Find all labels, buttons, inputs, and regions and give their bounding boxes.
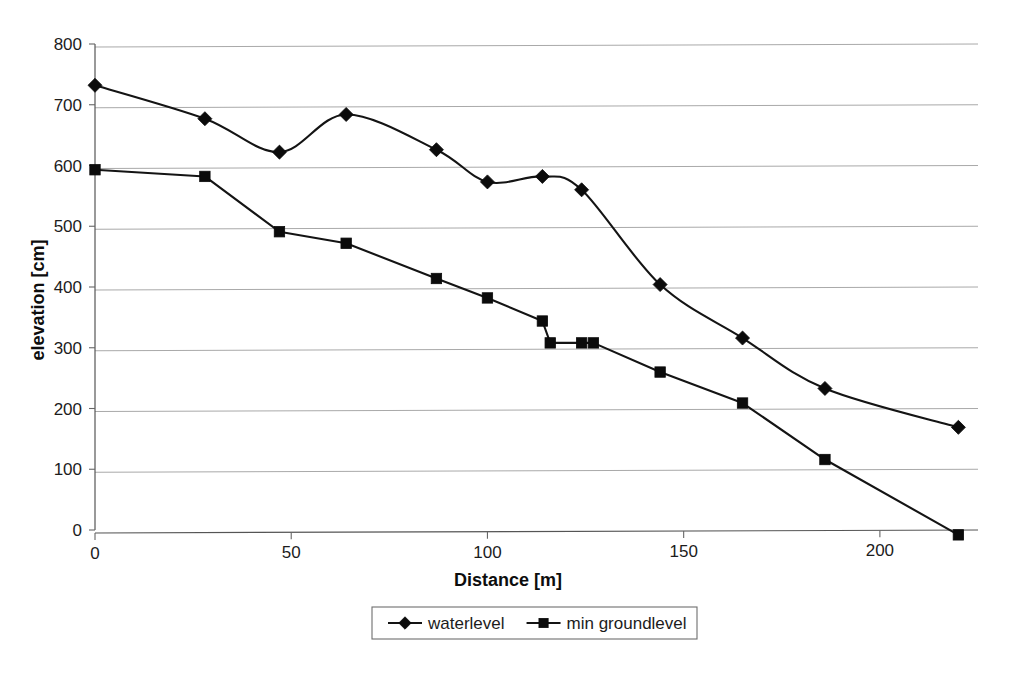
square-marker	[482, 293, 492, 303]
gridline	[95, 287, 978, 290]
square-marker	[588, 338, 598, 348]
diamond-marker	[535, 169, 549, 183]
square-marker	[820, 454, 830, 464]
square-marker	[953, 530, 963, 540]
chart-container: 0100200300400500600700800 050100150200 e…	[0, 0, 1009, 675]
diamond-marker	[88, 78, 102, 92]
square-marker	[431, 273, 441, 283]
y-tick-label: 200	[54, 400, 82, 419]
x-tick-label: 150	[669, 542, 697, 561]
y-tick-label: 300	[54, 339, 82, 358]
series-line	[95, 85, 958, 427]
y-tick-label: 800	[54, 35, 82, 54]
square-marker	[737, 398, 747, 408]
diamond-marker	[951, 420, 965, 434]
square-marker	[341, 238, 351, 248]
diamond-marker	[198, 112, 212, 126]
legend-label: waterlevel	[427, 614, 505, 633]
y-tick-label: 700	[54, 96, 82, 115]
gridline	[95, 166, 978, 169]
diamond-marker	[480, 175, 494, 189]
series-line	[95, 170, 958, 535]
legend-label: min groundlevel	[567, 614, 687, 633]
diamond-marker	[818, 381, 832, 395]
gridline	[95, 105, 978, 108]
gridline	[95, 44, 978, 47]
diamond-marker	[736, 331, 750, 345]
chart-legend: waterlevelmin groundlevel	[372, 607, 697, 639]
gridline	[95, 226, 978, 229]
series-waterlevel	[88, 78, 965, 434]
y-tick-label: 0	[73, 521, 82, 540]
y-axis-title: elevation [cm]	[28, 239, 48, 360]
square-marker	[576, 338, 586, 348]
diamond-marker	[272, 145, 286, 159]
diamond-marker	[429, 143, 443, 157]
square-marker	[90, 165, 100, 175]
square-marker	[200, 171, 210, 181]
x-tick-label: 100	[473, 543, 501, 562]
gridline	[95, 409, 978, 412]
y-tick-label: 100	[54, 460, 82, 479]
x-axis-tick-labels: 050100150200	[90, 541, 894, 563]
x-tick-label: 50	[282, 543, 301, 562]
gridlines	[95, 44, 978, 472]
line-chart: 0100200300400500600700800 050100150200 e…	[0, 0, 1009, 675]
x-axis-title: Distance [m]	[454, 570, 562, 590]
y-axis-tick-labels: 0100200300400500600700800	[54, 35, 82, 540]
gridline	[95, 348, 978, 351]
y-tick-label: 600	[54, 157, 82, 176]
series-min-groundlevel	[90, 165, 964, 541]
square-marker	[537, 316, 547, 326]
square-marker	[545, 338, 555, 348]
square-marker	[274, 227, 284, 237]
square-marker	[539, 618, 548, 627]
x-tick-label: 0	[90, 544, 99, 563]
square-marker	[655, 367, 665, 377]
diamond-marker	[339, 107, 353, 121]
y-tick-label: 400	[54, 278, 82, 297]
x-axis-line	[95, 530, 978, 533]
y-tick-label: 500	[54, 217, 82, 236]
x-tick-label: 200	[866, 541, 894, 560]
